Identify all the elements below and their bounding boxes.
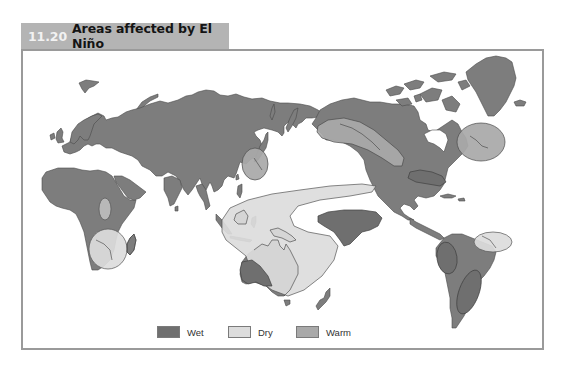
legend-label-wet: Wet xyxy=(187,327,204,338)
dry-region-southeast-africa xyxy=(89,229,127,269)
dry-region-east-africa xyxy=(99,198,111,220)
sri-lanka xyxy=(175,206,178,211)
wet-swatch xyxy=(157,326,180,338)
iceland xyxy=(514,100,526,106)
legend-label-warm: Warm xyxy=(326,327,351,338)
cuba xyxy=(440,194,456,198)
world-map xyxy=(0,0,563,368)
dry-swatch xyxy=(228,326,251,338)
india xyxy=(164,176,182,206)
madagascar xyxy=(127,234,136,255)
legend-label-dry: Dry xyxy=(258,327,273,338)
tasmania xyxy=(284,300,290,306)
legend-item-wet: Wet xyxy=(157,325,204,339)
arctic-island-7 xyxy=(458,80,470,90)
arctic-island-4 xyxy=(430,72,456,82)
hispaniola xyxy=(458,198,465,201)
ireland xyxy=(50,133,55,140)
arctic-island-6 xyxy=(442,96,460,112)
great-britain xyxy=(56,128,64,143)
philippines xyxy=(237,184,242,198)
legend-item-dry: Dry xyxy=(228,325,273,339)
se-asia xyxy=(196,184,210,210)
legend-item-warm: Warm xyxy=(296,325,351,339)
svalbard xyxy=(79,80,99,93)
arctic-island-2 xyxy=(404,80,424,90)
greenland xyxy=(466,56,516,116)
warm-region-eastern-canada xyxy=(457,123,505,161)
dry-region-northeast-brazil xyxy=(474,232,512,252)
warm-swatch xyxy=(296,326,319,338)
arctic-island-3 xyxy=(420,88,442,102)
central-america xyxy=(410,218,444,240)
taiwan xyxy=(236,174,239,180)
arctic-island-1 xyxy=(386,86,404,96)
warm-region-japan-korea xyxy=(242,148,268,180)
new-zealand xyxy=(316,288,330,310)
